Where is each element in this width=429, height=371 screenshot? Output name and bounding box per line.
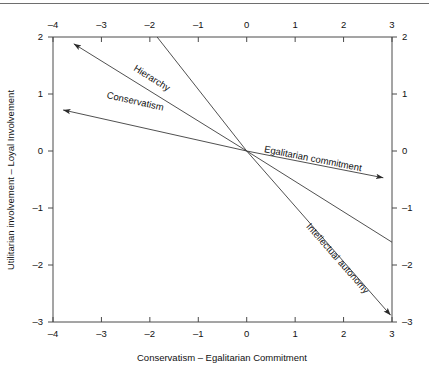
tick-label-top-x: –4 [48, 19, 59, 30]
y-axis-title: Utilitarian involvement – Loyal Involvem… [5, 90, 16, 270]
vector-label-hierarchy: Hierarchy [132, 62, 173, 93]
biplot-chart: –4–4–3–3–2–2–1–100112233221100–1–1–2–2–3… [0, 0, 429, 371]
tick-label-bottom-x: 2 [341, 328, 346, 339]
vector-label-intellectual-autonomy: Intellectual autonomy [304, 221, 372, 296]
tick-label-bottom-x: –1 [193, 328, 204, 339]
tick-label-bottom-x: 0 [244, 328, 249, 339]
tick-label-top-x: 2 [341, 19, 346, 30]
tick-label-top-x: –2 [145, 19, 156, 30]
tick-label-left-y: –1 [32, 202, 43, 213]
tick-label-left-y: 1 [38, 88, 43, 99]
plot-frame [53, 37, 392, 322]
tick-label-bottom-x: –4 [48, 328, 59, 339]
tick-marks [48, 37, 397, 322]
tick-label-left-y: –2 [32, 259, 43, 270]
tick-label-bottom-x: 3 [389, 328, 394, 339]
tick-label-left-y: 2 [38, 31, 43, 42]
tick-label-right-y: –1 [402, 202, 413, 213]
tick-label-right-y: 2 [402, 31, 407, 42]
tick-label-bottom-x: –2 [145, 328, 156, 339]
tick-label-bottom-x: –3 [96, 328, 107, 339]
tick-label-right-y: 1 [402, 88, 407, 99]
tick-label-left-y: 0 [38, 145, 43, 156]
vector-arrows [63, 37, 392, 315]
x-axis-title: Conservatism – Egalitarian Commitment [137, 352, 307, 363]
tick-label-right-y: –2 [402, 259, 413, 270]
vector-labels: HierarchyConservatismEgalitarian commitm… [106, 62, 372, 295]
tick-label-bottom-x: 1 [292, 328, 297, 339]
tick-labels: –4–4–3–3–2–2–1–100112233221100–1–1–2–2–3… [32, 19, 412, 339]
vector-hierarchy [74, 44, 247, 151]
tick-label-left-y: –3 [32, 316, 43, 327]
tick-label-top-x: 0 [244, 19, 249, 30]
tick-label-right-y: –3 [402, 316, 413, 327]
tick-label-right-y: 0 [402, 145, 407, 156]
tick-label-top-x: 3 [389, 19, 394, 30]
vector-label-conservatism: Conservatism [106, 89, 165, 112]
tick-label-top-x: 1 [292, 19, 297, 30]
tick-label-top-x: –1 [193, 19, 204, 30]
vector-label-egalitarian-commitment: Egalitarian commitment [263, 143, 363, 173]
tick-label-top-x: –3 [96, 19, 107, 30]
figure-container: –4–4–3–3–2–2–1–100112233221100–1–1–2–2–3… [0, 0, 429, 371]
